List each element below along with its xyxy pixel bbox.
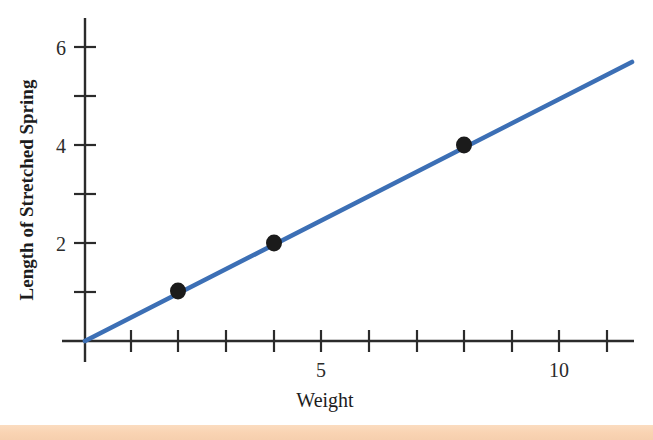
x-tick-label-5: 5 (316, 359, 326, 381)
footer-color-strip (0, 425, 653, 440)
x-tick-label-10: 10 (549, 359, 569, 381)
data-point (456, 137, 472, 154)
spring-length-vs-weight-chart: 2 4 6 5 10 Weight Length of Stretched Sp… (0, 0, 653, 440)
y-axis-title: Length of Stretched Spring (16, 79, 37, 300)
y-tick-label-6: 6 (56, 37, 66, 59)
y-tick-label-4: 4 (56, 135, 66, 157)
data-point (170, 283, 186, 300)
trend-line (85, 62, 632, 341)
y-tick-label-2: 2 (56, 233, 66, 255)
data-point (266, 235, 282, 252)
chart-page: 2 4 6 5 10 Weight Length of Stretched Sp… (0, 0, 653, 440)
x-axis-title: Weight (296, 389, 354, 412)
